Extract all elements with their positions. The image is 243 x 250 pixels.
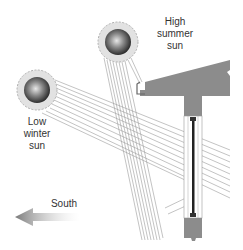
low-winter-sun-icon bbox=[17, 70, 57, 110]
high-sun-label: High summer sun bbox=[150, 16, 200, 52]
label-line: High bbox=[150, 16, 200, 28]
low-sun-label: Low winter sun bbox=[12, 116, 62, 152]
label-line: summer bbox=[150, 28, 200, 40]
label-line: Low bbox=[12, 116, 62, 128]
roof-overhang bbox=[137, 60, 230, 116]
south-arrow-icon bbox=[15, 208, 80, 226]
window-sill bbox=[184, 218, 202, 241]
south-label: South bbox=[44, 198, 84, 210]
window bbox=[184, 116, 202, 241]
glass-pane bbox=[192, 120, 195, 214]
high-summer-sun-icon bbox=[98, 22, 138, 62]
label-line: winter bbox=[12, 128, 62, 140]
label-line: sun bbox=[150, 40, 200, 52]
label-line: sun bbox=[12, 140, 62, 152]
